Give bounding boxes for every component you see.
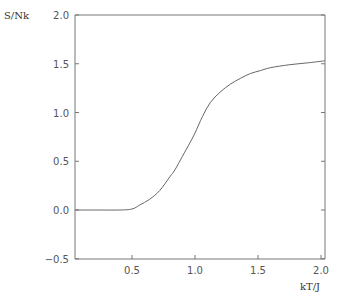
y-tick-label: 2.0 bbox=[53, 10, 69, 21]
y-ticks: −0.50.00.51.01.52.0 bbox=[45, 10, 325, 265]
x-tick-label: 1.5 bbox=[250, 265, 266, 276]
entropy-chart: −0.50.00.51.01.52.0 0.51.01.52.0 S/Nk kT… bbox=[0, 0, 337, 302]
y-tick-label: 0.5 bbox=[53, 156, 69, 167]
x-tick-label: 0.5 bbox=[124, 265, 140, 276]
y-tick-label: 0.0 bbox=[53, 205, 69, 216]
plot-frame bbox=[75, 15, 325, 259]
y-tick-label: −0.5 bbox=[45, 254, 69, 265]
y-tick-label: 1.0 bbox=[53, 108, 69, 119]
x-tick-label: 2.0 bbox=[313, 265, 329, 276]
x-axis-label: kT/J bbox=[300, 281, 320, 292]
entropy-curve bbox=[75, 61, 324, 210]
x-tick-label: 1.0 bbox=[187, 265, 203, 276]
y-tick-label: 1.5 bbox=[53, 59, 69, 70]
y-axis-label: S/Nk bbox=[4, 10, 30, 21]
x-ticks: 0.51.01.52.0 bbox=[124, 255, 329, 276]
